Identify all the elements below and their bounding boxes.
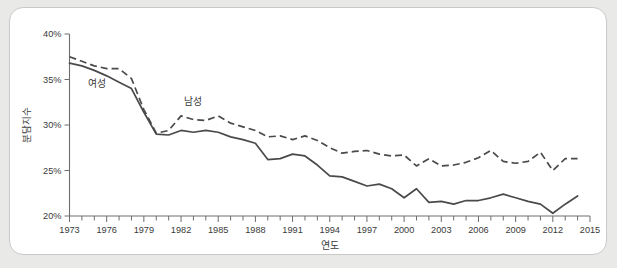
x-tick-label: 1991 [282,225,302,235]
chart-figure: 40%35%30%25%20%1973197619791982198519881… [0,0,617,268]
series-label-1: 여성 [88,78,106,89]
x-tick-label: 2009 [505,225,525,235]
x-tick-label: 1994 [320,225,340,235]
x-tick-label: 1988 [245,225,265,235]
x-tick-label: 2006 [468,225,488,235]
x-tick-label: 2012 [543,225,563,235]
x-tick-label: 1979 [134,225,154,235]
x-tick-label: 1976 [96,225,116,235]
line-chart: 40%35%30%25%20%1973197619791982198519881… [0,0,617,268]
y-tick-label: 30% [43,120,61,130]
series-line-2 [70,57,578,171]
x-tick-label: 2015 [580,225,600,235]
x-axis-title: 연도 [321,240,339,251]
x-tick-label: 1973 [59,225,79,235]
x-tick-label: 1985 [208,225,228,235]
x-tick-label: 2000 [394,225,414,235]
x-tick-label: 1997 [357,225,377,235]
series-line-1 [70,63,578,213]
y-tick-label: 20% [43,211,61,221]
y-tick-label: 25% [43,166,61,176]
series-label-2: 남성 [184,96,202,107]
y-tick-label: 35% [43,75,61,85]
y-axis-title: 분담지수 [21,107,32,143]
x-tick-label: 2003 [431,225,451,235]
x-tick-label: 1982 [171,225,191,235]
y-tick-label: 40% [43,29,61,39]
